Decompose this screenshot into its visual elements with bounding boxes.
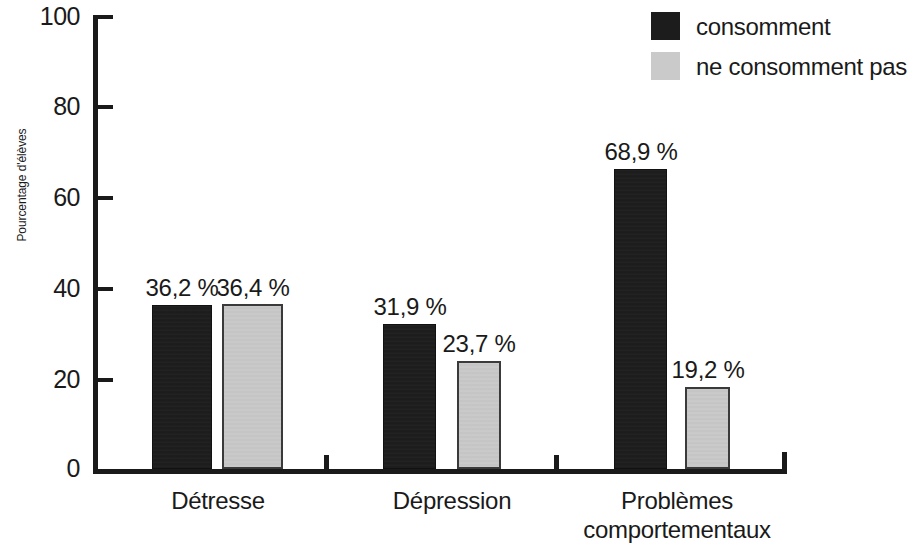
y-tick-label-60: 60 bbox=[0, 185, 80, 210]
bar-depression-ne-consomment-pas bbox=[457, 361, 501, 469]
data-label-detresse-ne-consomment-pas: 36,4 % bbox=[193, 276, 313, 300]
y-tick-label-100: 100 bbox=[0, 4, 80, 29]
legend-label-consomment: consomment bbox=[696, 15, 830, 39]
bar-detresse-consomment bbox=[152, 305, 212, 469]
x-axis-end-tick bbox=[782, 452, 787, 469]
x-axis-separator-tick-2 bbox=[554, 455, 559, 469]
y-tick-mark-80 bbox=[98, 105, 113, 109]
y-tick-mark-60 bbox=[98, 196, 113, 200]
y-tick-mark-20 bbox=[98, 378, 113, 382]
bar-problemes-comportementaux-ne-consomment-pas bbox=[685, 387, 730, 469]
bar-detresse-ne-consomment-pas bbox=[222, 304, 283, 469]
legend-swatch-consomment bbox=[651, 12, 680, 40]
y-tick-label-0: 0 bbox=[0, 456, 80, 481]
bar-problemes-comportementaux-consomment bbox=[614, 169, 667, 469]
x-axis-separator-tick-1 bbox=[324, 455, 329, 469]
x-axis-line bbox=[93, 469, 787, 474]
legend-label-ne-consomment-pas: ne consomment pas bbox=[696, 55, 907, 79]
y-axis-line bbox=[93, 15, 98, 474]
data-label-depression-consomment: 31,9 % bbox=[350, 295, 470, 319]
y-tick-label-80: 80 bbox=[0, 94, 80, 119]
x-axis-category-label-problemes-comportementaux: Problèmes comportementaux bbox=[562, 486, 792, 544]
data-label-depression-ne-consomment-pas: 23,7 % bbox=[419, 332, 539, 356]
y-tick-label-20: 20 bbox=[0, 367, 80, 392]
x-axis-category-label-depression: Dépression bbox=[372, 486, 532, 515]
y-tick-mark-40 bbox=[98, 287, 113, 291]
data-label-problemes-comportementaux-ne-consomment-pas: 19,2 % bbox=[648, 358, 768, 382]
y-tick-mark-100 bbox=[98, 15, 113, 19]
data-label-problemes-comportementaux-consomment: 68,9 % bbox=[581, 140, 701, 164]
x-axis-category-label-detresse: Détresse bbox=[148, 486, 288, 515]
legend-swatch-ne-consomment-pas bbox=[651, 52, 680, 80]
y-tick-label-40: 40 bbox=[0, 276, 80, 301]
